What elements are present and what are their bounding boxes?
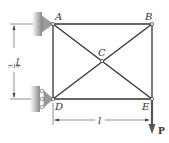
roller-support-d (30, 86, 53, 112)
vertical-dimension (10, 24, 33, 99)
joint-a (51, 22, 54, 25)
pin-support-a (32, 12, 53, 36)
horizontal-dimension (53, 103, 150, 125)
label-e: E (141, 101, 150, 112)
dim-horizontal-var: l (98, 115, 101, 126)
dim-vertical-var: l (16, 56, 19, 67)
label-d: D (54, 101, 63, 112)
label-b: B (144, 11, 152, 22)
joint-c (100, 59, 103, 62)
truss-diagram: A B C D E 3 3 4 l l P (0, 0, 169, 143)
label-a: A (54, 11, 62, 22)
load-arrow-p (149, 100, 156, 134)
joint-b (150, 22, 153, 25)
svg-text:3: 3 (7, 64, 14, 68)
load-label-p: P (158, 126, 165, 136)
label-c: C (98, 47, 106, 58)
